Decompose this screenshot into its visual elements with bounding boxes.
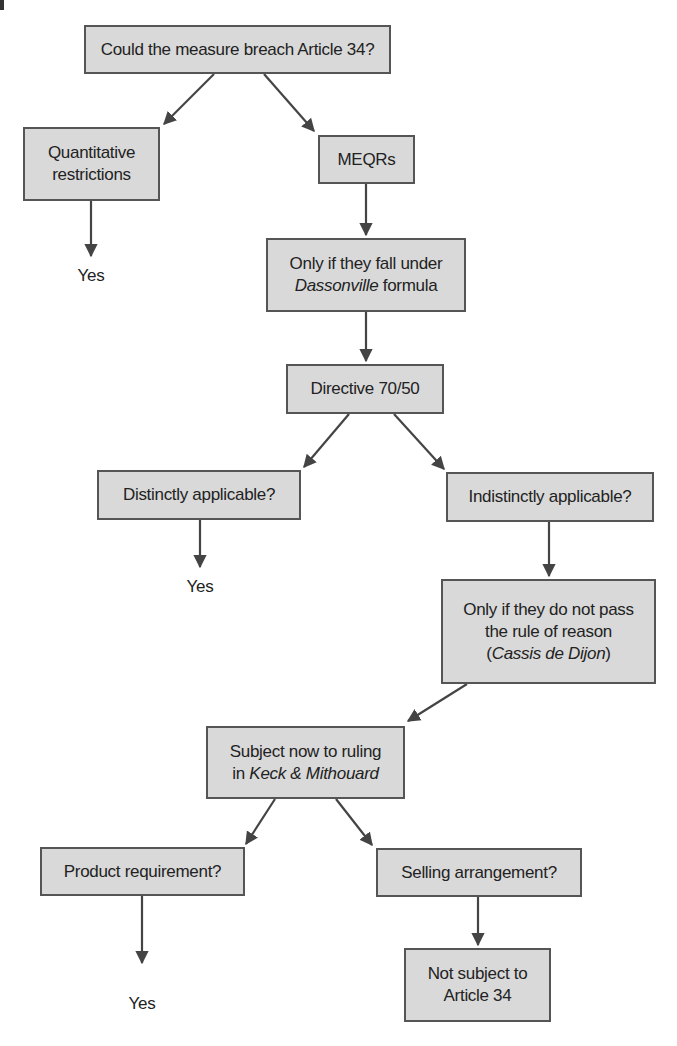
node-text-line: Article 34: [444, 985, 512, 1007]
outcome-yes-product: Yes: [129, 994, 156, 1014]
node-not-subject-to-article-34: Not subject to Article 34: [404, 948, 551, 1022]
arrow-keck-to-product: [246, 799, 275, 844]
arrow-directive-to-indistinct: [394, 414, 444, 469]
node-text-line: Product requirement?: [64, 861, 221, 883]
arrow-keck-to-selling: [336, 799, 372, 845]
node-selling-arrangement: Selling arrangement?: [376, 848, 582, 897]
outcome-yes-quantitative: Yes: [78, 266, 105, 286]
outcome-yes-distinct: Yes: [187, 577, 214, 597]
node-text-line: Subject now to ruling: [230, 741, 382, 763]
node-cassis-de-dijon: Only if they do not pass the rule of rea…: [441, 579, 656, 684]
node-text-line: Only if they fall under: [290, 253, 443, 275]
node-text-line: restrictions: [52, 164, 131, 186]
node-text-line: Quantitative: [48, 142, 135, 164]
node-dassonville: Only if they fall under Dassonville form…: [266, 238, 466, 312]
arrow-root-to-meqrs: [264, 74, 314, 131]
node-could-breach-article-34: Could the measure breach Article 34?: [84, 25, 391, 74]
node-meqrs: MEQRs: [318, 135, 415, 184]
node-product-requirement: Product requirement?: [40, 847, 245, 896]
node-keck-mithouard: Subject now to ruling in Keck & Mithouar…: [206, 726, 405, 799]
node-text-line: in Keck & Mithouard: [232, 763, 378, 785]
node-text-line: the rule of reason: [485, 621, 612, 643]
node-text-line: Dassonville formula: [295, 275, 438, 297]
node-text-line: Not subject to: [428, 963, 528, 985]
node-text-line: Selling arrangement?: [401, 862, 557, 884]
case-name-dassonville: Dassonville: [295, 276, 379, 295]
arrow-root-to-quantitative: [164, 74, 214, 124]
arrow-cassis-to-keck: [408, 684, 467, 721]
case-name-keck: Keck & Mithouard: [249, 764, 378, 783]
node-text-line: MEQRs: [337, 149, 395, 171]
node-text-line: Only if they do not pass: [463, 599, 633, 621]
node-text-line: (Cassis de Dijon): [486, 643, 610, 665]
node-directive-70-50: Directive 70/50: [286, 364, 444, 414]
node-indistinctly-applicable: Indistinctly applicable?: [446, 472, 654, 522]
node-distinctly-applicable: Distinctly applicable?: [97, 470, 301, 520]
case-name-cassis: Cassis de Dijon: [492, 644, 606, 663]
node-text-line: Could the measure breach Article 34?: [101, 39, 375, 61]
arrow-directive-to-distinct: [304, 414, 349, 467]
node-text-line: Distinctly applicable?: [123, 484, 275, 506]
node-text-line: Directive 70/50: [311, 378, 420, 400]
node-quantitative-restrictions: Quantitative restrictions: [23, 127, 160, 201]
node-text-line: Indistinctly applicable?: [469, 486, 632, 508]
